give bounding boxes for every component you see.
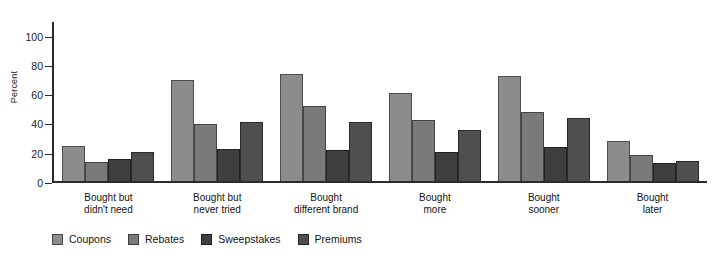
bar-group xyxy=(54,22,163,181)
bar xyxy=(326,150,349,181)
y-axis-tick-label: 40 xyxy=(31,118,43,130)
bar xyxy=(131,152,154,181)
y-axis-tick-mark xyxy=(45,95,52,96)
bar-chart: Percent 020406080100 Bought butdidn't ne… xyxy=(0,0,716,258)
y-axis-title: Percent xyxy=(9,57,19,117)
bar-group xyxy=(598,22,707,181)
x-axis-category-label: Boughtdifferent brand xyxy=(272,192,381,215)
bar xyxy=(85,162,108,181)
bar-group xyxy=(163,22,272,181)
bar xyxy=(194,124,217,181)
bar xyxy=(240,122,263,181)
bar xyxy=(349,122,372,181)
bar-group xyxy=(272,22,381,181)
bar xyxy=(412,120,435,181)
y-axis-tick-label: 0 xyxy=(37,177,43,189)
bar xyxy=(389,93,412,181)
bar xyxy=(435,152,458,181)
legend-item: Coupons xyxy=(52,233,111,245)
y-axis-tick-mark xyxy=(45,66,52,67)
x-axis-line xyxy=(52,181,707,183)
legend-label: Sweepstakes xyxy=(218,233,280,245)
legend-swatch xyxy=(128,234,139,245)
legend-label: Rebates xyxy=(145,233,184,245)
bar xyxy=(280,74,303,181)
bar xyxy=(630,155,653,181)
x-axis-category-label: Bought butnever tried xyxy=(163,192,272,215)
bar xyxy=(676,161,699,181)
x-axis-category-label: Bought butdidn't need xyxy=(54,192,163,215)
bar xyxy=(498,76,521,181)
bar xyxy=(171,80,194,181)
bar xyxy=(217,149,240,181)
bar xyxy=(653,163,676,181)
bar xyxy=(458,130,481,181)
bar xyxy=(303,106,326,181)
x-axis-category-label: Boughtsooner xyxy=(489,192,598,215)
legend-label: Premiums xyxy=(315,233,362,245)
y-axis-tick-mark xyxy=(45,183,52,184)
y-axis-tick-mark xyxy=(45,37,52,38)
x-axis-category-label: Boughtmore xyxy=(380,192,489,215)
legend-swatch xyxy=(298,234,309,245)
legend-item: Sweepstakes xyxy=(201,233,280,245)
legend-item: Premiums xyxy=(298,233,362,245)
plot-area: 020406080100 xyxy=(52,22,707,183)
bar xyxy=(521,112,544,181)
y-axis-tick-mark xyxy=(45,124,52,125)
y-axis-tick-label: 20 xyxy=(31,148,43,160)
legend-label: Coupons xyxy=(69,233,111,245)
chart-legend: CouponsRebatesSweepstakesPremiums xyxy=(52,233,362,245)
bar xyxy=(607,141,630,181)
legend-item: Rebates xyxy=(128,233,184,245)
bar-group xyxy=(489,22,598,181)
x-axis-category-label: Boughtlater xyxy=(598,192,707,215)
x-axis-category-labels: Bought butdidn't needBought butnever tri… xyxy=(54,192,707,215)
y-axis-tick-mark xyxy=(45,154,52,155)
legend-swatch xyxy=(201,234,212,245)
bar xyxy=(108,159,131,181)
bar xyxy=(62,146,85,181)
bar xyxy=(567,118,590,181)
y-axis-tick-label: 100 xyxy=(25,31,43,43)
legend-swatch xyxy=(52,234,63,245)
bar-groups xyxy=(54,22,707,181)
y-axis-tick-label: 60 xyxy=(31,89,43,101)
bar-group xyxy=(380,22,489,181)
y-axis-tick-label: 80 xyxy=(31,60,43,72)
bar xyxy=(544,147,567,181)
